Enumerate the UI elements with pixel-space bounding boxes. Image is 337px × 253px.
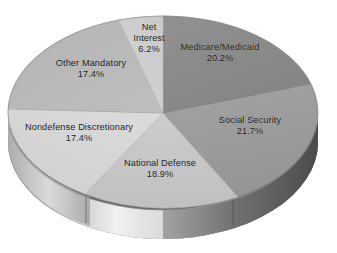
slice-label-other-mandatory-name: Other Mandatory bbox=[36, 58, 146, 69]
slice-label-social-security-name: Social Security bbox=[200, 115, 300, 126]
slice-label-net-interest-name: Net Interest bbox=[118, 22, 180, 44]
slice-label-national-defense-value: 18.9% bbox=[108, 169, 212, 180]
slice-label-national-defense: National Defense 18.9% bbox=[108, 158, 212, 180]
slice-label-other-mandatory: Other Mandatory 17.4% bbox=[36, 58, 146, 80]
slice-label-social-security-value: 21.7% bbox=[200, 126, 300, 137]
pie-chart: Medicare/Medicaid 20.2% Social Security … bbox=[0, 0, 337, 253]
slice-label-net-interest-value: 6.2% bbox=[118, 44, 180, 55]
slice-label-medicare: Medicare/Medicaid 20.2% bbox=[168, 42, 272, 64]
slice-label-nondefense-discretionary-value: 17.4% bbox=[14, 133, 144, 144]
slice-label-medicare-name: Medicare/Medicaid bbox=[168, 42, 272, 53]
slice-label-social-security: Social Security 21.7% bbox=[200, 115, 300, 137]
slice-label-net-interest: Net Interest 6.2% bbox=[118, 22, 180, 55]
slice-label-other-mandatory-value: 17.4% bbox=[36, 69, 146, 80]
slice-label-national-defense-name: National Defense bbox=[108, 158, 212, 169]
slice-label-medicare-value: 20.2% bbox=[168, 53, 272, 64]
slice-label-nondefense-discretionary-name: Nondefense Discretionary bbox=[14, 122, 144, 133]
slice-label-nondefense-discretionary: Nondefense Discretionary 17.4% bbox=[14, 122, 144, 144]
